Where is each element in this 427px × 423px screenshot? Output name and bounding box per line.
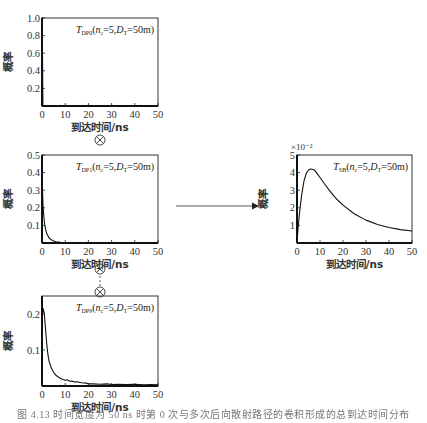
y-tick-label: 0.2 [27,83,40,94]
data-series-dp9 [42,309,158,385]
y-tick-label: 0.2 [27,202,40,213]
y-tick-label: 0.2 [27,309,40,320]
curve-annotation: TDP9(nc=5,DT=50m) [76,302,154,314]
x-tick-label: 30 [361,246,372,257]
x-tick-label: 30 [106,389,117,400]
data-series-sb [297,169,412,243]
x-tick-label: 50 [153,246,164,257]
x-tick-label: 30 [106,109,117,120]
y-tick-label: 0.5 [27,150,40,161]
chart-panel-dp0: 010203040500.20.40.60.81.0到达时间/ns概率TDP0(… [2,13,163,134]
y-tick-label: 0.6 [27,48,40,59]
y-tick-label: 0.1 [27,220,40,231]
x-tick-label: 10 [60,246,71,257]
y-tick-label: 4 [290,167,296,178]
y-tick-label: 1.0 [27,13,40,24]
figure-canvas: 010203040500.20.40.60.81.0到达时间/ns概率TDP0(… [0,0,427,423]
x-tick-label: 20 [338,246,349,257]
x-tick-label: 40 [130,109,141,120]
x-tick-label: 50 [153,109,164,120]
x-tick-label: 0 [294,246,299,257]
chart-panel-dp1: 010203040500.10.20.30.40.5到达时间/ns概率TDP1(… [2,150,163,271]
y-axis-label: 概率 [2,330,14,351]
y-tick-label: 2 [290,202,295,213]
x-axis-label: 到达时间/ns [326,258,384,270]
figure-caption: 图 4.13 时间宽度为 50 ns 时第 0 次与多次后向散射路径的卷积形成的… [0,406,427,421]
right-arrow-icon [176,203,259,210]
x-tick-label: 20 [83,389,94,400]
x-axis-label: 到达时间/ns [71,121,129,133]
x-tick-label: 40 [130,389,141,400]
y-tick-label: 1 [290,220,295,231]
x-tick-label: 30 [106,246,117,257]
x-tick-label: 20 [83,246,94,257]
curve-annotation: TDP1(nc=5,DT=50m) [76,161,154,173]
y-tick-label: 3 [290,185,295,196]
y-tick-label: 0.4 [27,167,41,178]
y-axis-label: 概率 [2,188,14,209]
curve-annotation: TDP0(nc=5,DT=50m) [76,24,154,36]
x-tick-label: 10 [60,109,71,120]
chart-panel-dp9: 010203040500.10.2到达时间/ns概率TDP9(nc=5,DT=5… [2,296,163,413]
convolution-operator-icon [95,135,105,145]
y-tick-label: 0.4 [27,65,41,76]
x-tick-label: 40 [384,246,395,257]
y-axis-label: 概率 [2,51,14,72]
x-tick-label: 20 [83,109,94,120]
chart-panel-sb: 0102030405012345到达时间/ns概率×10⁻²TSB(nc=5,D… [257,142,417,270]
y-multiplier: ×10⁻² [291,142,313,152]
y-axis-label: 概率 [257,188,269,209]
x-tick-label: 40 [130,246,141,257]
x-tick-label: 0 [39,246,44,257]
ellipsis-icon [99,276,101,286]
y-tick-label: 0.1 [27,345,40,356]
curve-annotation: TSB(nc=5,DT=50m) [333,161,408,173]
x-tick-label: 0 [39,109,44,120]
x-tick-label: 0 [39,389,44,400]
y-tick-label: 0.3 [27,185,40,196]
x-tick-label: 10 [315,246,326,257]
data-series-dp1 [42,176,158,243]
y-tick-label: 0.8 [27,30,40,41]
x-tick-label: 50 [153,389,164,400]
x-tick-label: 10 [60,389,71,400]
x-tick-label: 50 [407,246,418,257]
